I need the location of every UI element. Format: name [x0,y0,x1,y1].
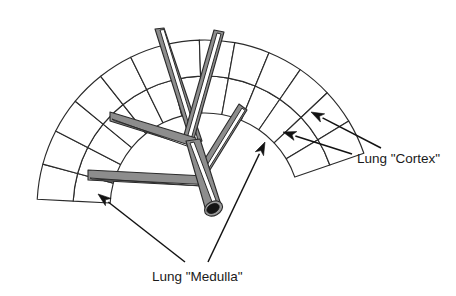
lung-schematic-diagram: Lung "Cortex" Lung "Medulla" [0,0,456,296]
figure-canvas: Lung "Cortex" Lung "Medulla" [0,0,456,296]
leader-line [108,202,185,262]
medulla-arrow-left [98,194,185,262]
label-lung-medulla: Lung "Medulla" [152,269,243,284]
label-lung-cortex: Lung "Cortex" [357,151,440,166]
arrow-head [255,142,265,156]
